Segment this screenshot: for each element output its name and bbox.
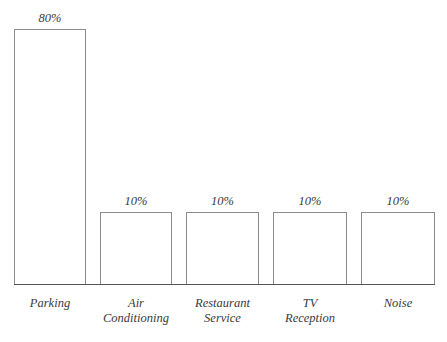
plot-area: 80% 10% 10% 10% 10% Parking Air Conditio… [0,0,447,342]
x-axis-line [14,284,435,285]
value-label-restaurant-service: 10% [186,194,259,208]
bar-parking [14,29,86,285]
bar-chart: 80% 10% 10% 10% 10% Parking Air Conditio… [0,0,447,342]
category-label-restaurant-service: Restaurant Service [172,296,273,326]
bar-noise [361,212,435,285]
value-label-parking: 80% [14,11,86,25]
value-label-noise: 10% [361,194,435,208]
bar-air-conditioning [100,212,172,285]
category-label-parking: Parking [0,296,100,311]
bar-restaurant-service [186,212,259,285]
bar-tv-reception [273,212,347,285]
category-label-air-conditioning: Air Conditioning [86,296,186,326]
value-label-air-conditioning: 10% [100,194,172,208]
category-label-noise: Noise [348,296,447,311]
category-label-tv-reception: TV Reception [260,296,360,326]
value-label-tv-reception: 10% [273,194,347,208]
